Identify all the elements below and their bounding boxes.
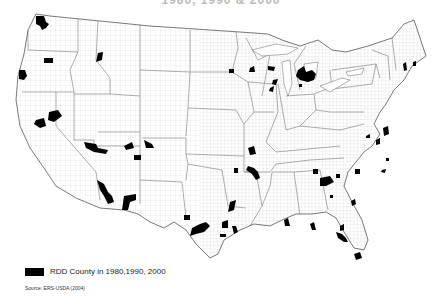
county-boundaries: [0, 0, 442, 300]
legend: RDD County in 1980,1990, 2000: [25, 267, 166, 276]
legend-label: RDD County in 1980,1990, 2000: [50, 267, 166, 276]
source-note: Source: ERS-USDA (2004): [25, 285, 85, 291]
us-county-map: [0, 0, 442, 300]
legend-swatch: [25, 268, 44, 276]
